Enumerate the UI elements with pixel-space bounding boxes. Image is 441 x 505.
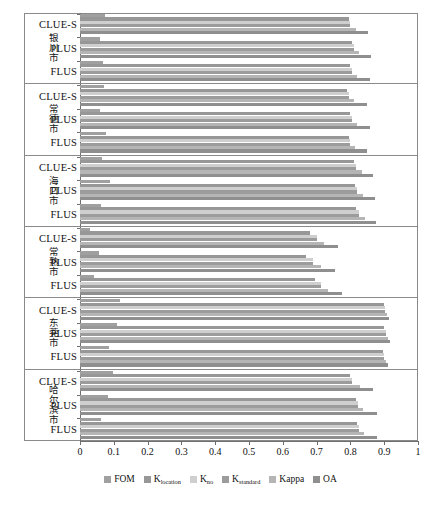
legend-swatch-icon: [104, 476, 111, 483]
x-axis-tick: [148, 441, 149, 445]
bar-OA: [80, 317, 389, 320]
bar-group: 东莞市CLUE-SPLUSFLUS: [24, 298, 418, 369]
legend-label-subscript: location: [161, 478, 181, 485]
model-row: FLUS: [80, 274, 418, 297]
legend-swatch-icon: [313, 476, 320, 483]
x-axis-tick: [114, 441, 115, 445]
model-row: FLUS: [80, 417, 418, 441]
x-axis-tick: [418, 441, 419, 445]
model-label: CLUE-S: [23, 233, 77, 244]
model-label: CLUE-S: [23, 91, 77, 102]
bar-OA: [80, 269, 335, 272]
model-label: FLUS: [23, 351, 77, 362]
bar-stack: [80, 323, 418, 344]
bar-stack: [80, 346, 418, 367]
bar-stack: [80, 275, 418, 296]
bar-stack: [80, 132, 418, 153]
x-axis-tick-label: 0: [78, 446, 83, 457]
legend-label-base: K: [232, 474, 239, 484]
model-label: PLUS: [23, 43, 77, 54]
bar-OA: [80, 412, 377, 415]
x-axis-tick-labels: 00.10.20.30.40.50.60.70.80.91: [0, 446, 441, 462]
bar-stack: [80, 228, 418, 249]
bar-OA: [80, 197, 375, 200]
bar-stack: [80, 371, 418, 393]
legend-label: Klocation: [154, 474, 181, 484]
chart-legend: FOMKlocationKnoKstandardKappaOA: [0, 474, 441, 484]
legend-label-subscript: standard: [239, 478, 260, 485]
model-row: FLUS: [80, 345, 418, 368]
legend-label-subscript: no: [207, 478, 213, 485]
bar-group: 海口市CLUE-SPLUSFLUS: [24, 156, 418, 227]
bar-OA: [80, 126, 370, 129]
legend-swatch-icon: [222, 476, 229, 483]
bar-stack: [80, 61, 418, 82]
model-rows: CLUE-SPLUSFLUS: [80, 13, 418, 83]
model-label: CLUE-S: [23, 305, 77, 316]
legend-label: Kstandard: [232, 474, 260, 484]
legend-item-K_standard[interactable]: Kstandard: [222, 474, 260, 484]
x-axis-tick-label: 0.1: [108, 446, 121, 457]
x-axis-tick: [215, 441, 216, 445]
model-rows: CLUE-SPLUSFLUS: [80, 227, 418, 297]
model-row: CLUE-S: [80, 298, 418, 321]
bar-OA: [80, 292, 342, 295]
bar-OA: [80, 221, 376, 224]
legend-label: FOM: [114, 474, 135, 484]
bar-stack: [80, 204, 418, 225]
bar-OA: [80, 78, 370, 81]
bar-group: 常熟市CLUE-SPLUSFLUS: [24, 227, 418, 298]
x-axis-tick-label: 0.9: [378, 446, 391, 457]
x-axis-tick-label: 0.7: [310, 446, 323, 457]
bar-OA: [80, 436, 377, 439]
model-row: PLUS: [80, 250, 418, 273]
x-axis-tick-label: 0.5: [243, 446, 256, 457]
model-label: CLUE-S: [23, 376, 77, 387]
bar-stack: [80, 251, 418, 272]
bar-OA: [80, 55, 371, 58]
legend-item-OA[interactable]: OA: [313, 474, 337, 484]
model-label: PLUS: [23, 400, 77, 411]
bar-OA: [80, 363, 388, 366]
x-axis-tick-label: 0.4: [209, 446, 222, 457]
x-axis-tick: [350, 441, 351, 445]
model-row: FLUS: [80, 203, 418, 226]
bar-stack: [80, 37, 418, 58]
model-label: PLUS: [23, 328, 77, 339]
bar-stack: [80, 157, 418, 178]
x-axis-tick: [384, 441, 385, 445]
legend-swatch-icon: [190, 476, 197, 483]
legend-label-base: K: [200, 474, 207, 484]
x-axis-tick-label: 0.6: [277, 446, 290, 457]
model-row: CLUE-S: [80, 227, 418, 250]
model-row: PLUS: [80, 108, 418, 131]
model-label: FLUS: [23, 137, 77, 148]
model-row: CLUE-S: [80, 13, 418, 36]
model-row: CLUE-S: [80, 156, 418, 179]
legend-swatch-icon: [144, 476, 151, 483]
model-label: CLUE-S: [23, 162, 77, 173]
legend-item-K_location[interactable]: Klocation: [144, 474, 181, 484]
legend-item-K_no[interactable]: Kno: [190, 474, 213, 484]
legend-label: Kappa: [279, 474, 304, 484]
legend-item-FOM[interactable]: FOM: [104, 474, 135, 484]
bar-stack: [80, 109, 418, 130]
legend-label-base: K: [154, 474, 161, 484]
bar-stack: [80, 14, 418, 35]
model-row: PLUS: [80, 36, 418, 59]
legend-item-Kappa[interactable]: Kappa: [269, 474, 304, 484]
x-axis-tick: [181, 441, 182, 445]
x-axis-tick-label: 0.8: [344, 446, 357, 457]
bar-group: 银川市CLUE-SPLUSFLUS: [24, 13, 418, 84]
model-label: PLUS: [23, 114, 77, 125]
model-label: PLUS: [23, 185, 77, 196]
bar-group: 常德市CLUE-SPLUSFLUS: [24, 84, 418, 155]
bar-OA: [80, 388, 373, 391]
model-label: FLUS: [23, 209, 77, 220]
bar-OA: [80, 149, 367, 152]
model-label: FLUS: [23, 66, 77, 77]
bar-group: 哈尔滨市CLUE-SPLUSFLUS: [24, 370, 418, 441]
x-axis-tick: [317, 441, 318, 445]
legend-label: OA: [323, 474, 337, 484]
bar-stack: [80, 395, 418, 417]
